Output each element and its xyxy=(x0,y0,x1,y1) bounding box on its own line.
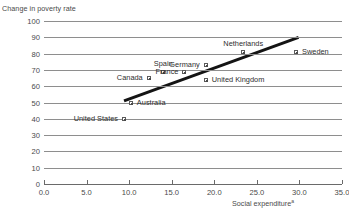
y-tick-label: 40 xyxy=(32,114,40,123)
x-tick xyxy=(129,180,130,184)
x-tick xyxy=(342,180,343,184)
x-tick-label: 0.0 xyxy=(39,188,50,197)
y-axis-title: Change in poverty rate xyxy=(2,4,76,13)
data-point-label: Canada xyxy=(117,74,143,82)
data-point-label: United Kingdom xyxy=(212,76,265,84)
gridline xyxy=(44,37,342,38)
y-tick-label: 10 xyxy=(32,163,40,172)
x-tick xyxy=(214,180,215,184)
data-point-label: Netherlands xyxy=(223,40,263,48)
data-point-label: Australia xyxy=(137,99,166,107)
gridline xyxy=(44,168,342,169)
x-tick xyxy=(44,180,45,184)
plot-area: 01020304050607080901000.05.010.015.020.0… xyxy=(44,21,342,184)
x-tick-label: 15.0 xyxy=(164,188,179,197)
gridline xyxy=(44,135,342,136)
data-point-marker xyxy=(204,63,208,67)
x-tick-label: 10.0 xyxy=(122,188,137,197)
gridline xyxy=(44,184,342,185)
gridline xyxy=(44,86,342,87)
data-point-marker xyxy=(204,78,208,82)
x-tick-label: 25.0 xyxy=(249,188,264,197)
data-point-marker xyxy=(129,101,133,105)
y-tick-label: 30 xyxy=(32,131,40,140)
x-tick xyxy=(172,180,173,184)
gridline xyxy=(44,70,342,71)
x-axis-title: Social expenditurea xyxy=(232,198,294,208)
y-tick-label: 50 xyxy=(32,98,40,107)
y-tick-label: 90 xyxy=(32,33,40,42)
y-tick-label: 80 xyxy=(32,49,40,58)
chart-title xyxy=(60,0,300,1)
x-tick-label: 5.0 xyxy=(81,188,92,197)
data-point-label: Germany xyxy=(169,61,199,69)
y-tick-label: 100 xyxy=(27,17,40,26)
x-tick-label: 20.0 xyxy=(207,188,222,197)
y-tick-label: 60 xyxy=(32,82,40,91)
x-tick xyxy=(87,180,88,184)
x-tick-label: 30.0 xyxy=(292,188,307,197)
x-tick xyxy=(257,180,258,184)
x-tick xyxy=(299,180,300,184)
y-tick-label: 70 xyxy=(32,65,40,74)
gridline xyxy=(44,151,342,152)
y-tick-label: 20 xyxy=(32,147,40,156)
data-point-marker xyxy=(294,50,298,54)
data-point-marker xyxy=(122,117,126,121)
data-point-marker xyxy=(241,50,245,54)
data-point-marker xyxy=(147,76,151,80)
gridline xyxy=(44,103,342,104)
x-tick-label: 35.0 xyxy=(335,188,349,197)
x-axis-title-text: Social expenditure xyxy=(232,199,291,208)
x-axis-title-superscript: a xyxy=(291,198,294,204)
data-point-label: Sweden xyxy=(302,48,329,56)
gridline xyxy=(44,21,342,22)
data-point-marker xyxy=(182,70,186,74)
data-point-label: United States xyxy=(74,115,118,123)
